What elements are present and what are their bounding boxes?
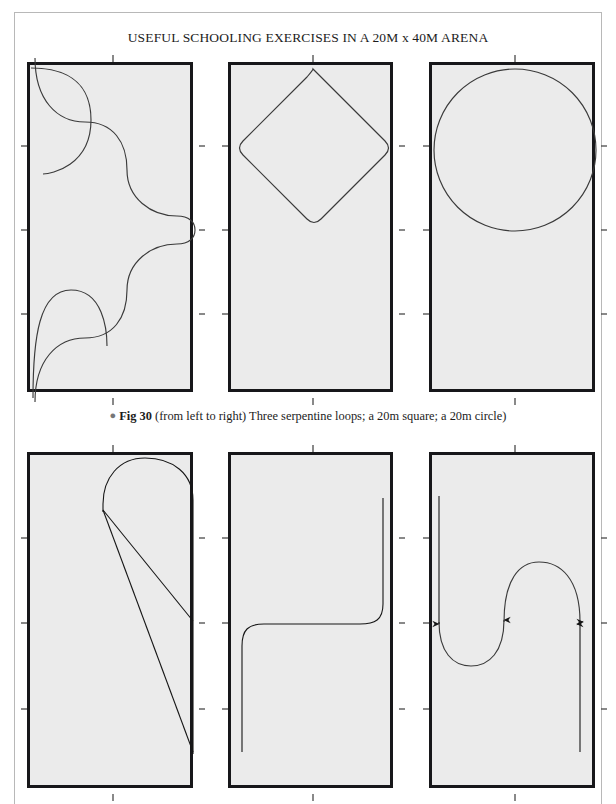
arena-figure-eight-arrows <box>429 452 595 788</box>
figure-number: Fig 30 <box>119 409 152 423</box>
serpentine-full <box>35 58 195 402</box>
figure-eight-lower-loop <box>439 620 504 666</box>
diagonal-return-inner <box>103 510 193 752</box>
figure-caption: ●Fig 30 (from left to right) Three serpe… <box>0 409 616 424</box>
circle-20m-path <box>434 69 596 231</box>
figure-eight-upper-loop <box>504 562 580 622</box>
arena-half-circle-return <box>27 452 193 788</box>
serpentine-path <box>33 290 107 398</box>
arena-circle-20m <box>429 62 595 392</box>
half-circle-path <box>103 458 193 754</box>
change-rein-path <box>242 498 383 752</box>
diagonal-return-outer <box>103 510 193 621</box>
arena-serpentine-loops <box>27 62 193 392</box>
arena-square-20m <box>228 62 393 392</box>
figure-caption-text: (from left to right) Three serpentine lo… <box>155 409 506 423</box>
serpentine-path-main <box>31 68 91 174</box>
bullet-icon: ● <box>110 409 117 421</box>
page-title: USEFUL SCHOOLING EXERCISES IN A 20M x 40… <box>0 30 616 46</box>
arena-change-rein-diagonal <box>228 452 393 788</box>
square-diamond-path <box>240 69 389 223</box>
